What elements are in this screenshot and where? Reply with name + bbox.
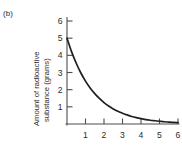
x-axis-tick-label: 4 [139, 130, 144, 140]
x-axis-tick-label: 2 [102, 130, 107, 140]
y-axis-tick-label: 5 [58, 33, 63, 43]
y-axis-tick-label: 2 [58, 85, 63, 95]
plot-area: 123456123456 [0, 0, 182, 146]
decay-curve-line [67, 38, 178, 122]
x-axis-tick-label: 6 [176, 130, 181, 140]
x-axis-tick-label: 5 [157, 130, 162, 140]
y-axis-tick-label: 4 [58, 50, 63, 60]
y-axis-tick-label: 1 [58, 102, 63, 112]
x-axis-tick-label: 3 [120, 130, 125, 140]
decay-curve-chart: 123456123456 [0, 0, 182, 146]
y-axis-tick-label: 6 [58, 16, 63, 26]
y-axis-tick-label: 3 [58, 68, 63, 78]
figure-panel-b: (b) Amount of radioactive substance (gra… [0, 0, 182, 146]
x-axis-tick-label: 1 [83, 130, 88, 140]
